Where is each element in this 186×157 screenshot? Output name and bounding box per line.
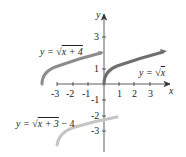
x-tick: 2 — [132, 89, 137, 99]
label-sqrt-x-plus-3-minus-4: y = √x + 3 − 4 — [16, 119, 75, 129]
y-tick: -3 — [91, 126, 99, 136]
y-tick: -2 — [91, 111, 99, 121]
y-tick: 3 — [94, 32, 99, 42]
x-tick: -3 — [51, 89, 59, 99]
curve-sqrt-x-plus-4 — [42, 53, 101, 84]
label-sqrt-x-plus-4: y = √x + 4 — [40, 47, 83, 57]
x-axis-label: x — [169, 86, 173, 96]
x-tick: 3 — [148, 89, 153, 99]
y-tick: 1 — [94, 64, 99, 74]
y-tick: -1 — [91, 95, 99, 105]
x-axis — [57, 82, 170, 87]
x-tick: -1 — [82, 89, 90, 99]
y-axis-label: y — [96, 10, 100, 20]
x-tick: -2 — [66, 89, 74, 99]
x-tick: 1 — [117, 89, 122, 99]
label-sqrt-x: y = √x — [139, 68, 165, 78]
